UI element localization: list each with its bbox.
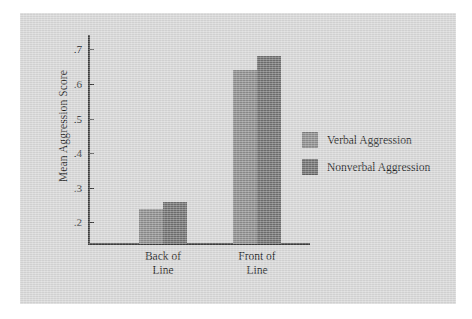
chart-legend: Verbal Aggression Nonverbal Aggression <box>302 126 430 180</box>
group-label-line2: Line <box>202 263 312 277</box>
legend-label: Verbal Aggression <box>327 134 412 146</box>
legend-item-nonverbal-aggression: Nonverbal Aggression <box>302 153 430 180</box>
figure-panel: Mean Aggression Score .7 .6 .5 .4 .3 .2 … <box>20 13 456 304</box>
bar-front-of-line-verbal <box>233 70 257 244</box>
y-axis-line <box>88 35 90 244</box>
y-axis-tick <box>88 222 94 223</box>
y-axis-tick <box>88 188 94 189</box>
y-axis-tick-label: .4 <box>56 147 82 159</box>
bar-front-of-line-nonverbal <box>257 56 281 244</box>
legend-label: Nonverbal Aggression <box>327 161 430 173</box>
legend-swatch-icon <box>302 159 318 175</box>
y-axis-tick <box>88 84 94 85</box>
y-axis-tick-label: .2 <box>56 216 82 228</box>
bar-chart-plot-area: Mean Aggression Score .7 .6 .5 .4 .3 .2 … <box>20 13 456 304</box>
legend-item-verbal-aggression: Verbal Aggression <box>302 126 430 153</box>
group-label-line1: Front of <box>202 249 312 263</box>
y-axis-tick <box>88 49 94 50</box>
bar-back-of-line-nonverbal <box>163 202 187 244</box>
y-axis-tick <box>88 153 94 154</box>
y-axis-tick-label: .5 <box>56 113 82 125</box>
y-axis-tick-label: .3 <box>56 182 82 194</box>
y-axis-tick-label: .7 <box>56 43 82 55</box>
legend-swatch-icon <box>302 132 318 148</box>
y-axis-tick <box>88 119 94 120</box>
bar-back-of-line-verbal <box>139 209 163 244</box>
x-axis-group-label-front-of-line: Front of Line <box>202 249 312 277</box>
y-axis-tick-label: .6 <box>56 78 82 90</box>
